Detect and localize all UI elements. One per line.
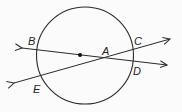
label-E: E [33, 83, 41, 95]
diagram-canvas: B A C D E [0, 0, 182, 112]
label-D: D [133, 65, 141, 77]
label-C: C [134, 35, 142, 47]
geometry-diagram: B A C D E [0, 0, 182, 112]
label-B: B [28, 35, 35, 47]
line-BD [22, 48, 167, 65]
label-A: A [101, 45, 109, 57]
center-point [78, 53, 82, 57]
